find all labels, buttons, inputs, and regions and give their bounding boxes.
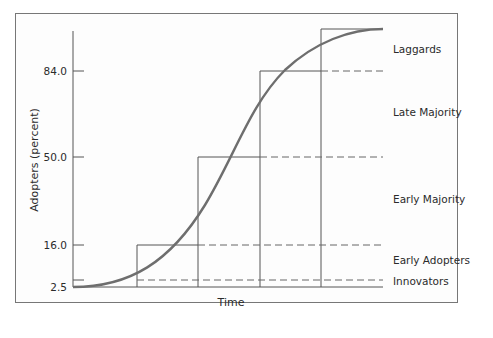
y-tick-label-50: 50.0 (44, 151, 67, 163)
y-tick-label-84: 84.0 (44, 65, 67, 77)
y-tick-label-2-5: 2.5 (50, 281, 67, 293)
label-early-adopters: Early Adopters (393, 254, 470, 266)
label-late-majority: Late Majority (393, 106, 462, 118)
label-early-majority: Early Majority (393, 193, 465, 205)
figure-frame (16, 14, 458, 303)
label-laggards: Laggards (393, 43, 441, 55)
x-axis-title: Time (217, 296, 245, 309)
y-axis-title: Adopters (percent) (28, 108, 41, 212)
diffusion-of-innovations-diagram: 84.0 50.0 16.0 2.5 Adopters (percent) Ti… (0, 0, 493, 338)
label-innovators: Innovators (393, 275, 449, 287)
y-tick-label-16: 16.0 (44, 239, 67, 251)
